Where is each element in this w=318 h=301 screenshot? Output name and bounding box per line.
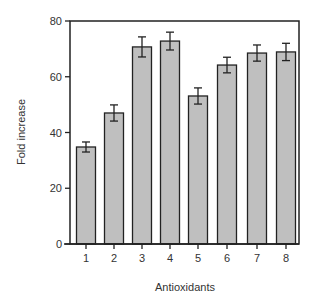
x-tick-label: 1 xyxy=(83,252,89,264)
x-ticks-group: 12345678 xyxy=(83,244,289,264)
x-tick-label: 7 xyxy=(254,252,260,264)
y-tick-label: 0 xyxy=(56,238,62,250)
y-tick-label: 40 xyxy=(50,127,62,139)
bar-2 xyxy=(105,113,124,244)
x-tick-label: 2 xyxy=(111,252,117,264)
x-axis-title: Antioxidants xyxy=(155,281,215,293)
x-tick-label: 8 xyxy=(283,252,289,264)
y-ticks-group: 020406080 xyxy=(50,15,70,250)
x-tick-label: 4 xyxy=(167,252,173,264)
y-axis-title: Fold increase xyxy=(15,99,27,165)
y-tick-label: 80 xyxy=(50,15,62,27)
bar-chart: 020406080 12345678 Fold increase Antioxi… xyxy=(0,0,318,301)
x-tick-label: 6 xyxy=(224,252,230,264)
y-tick-label: 20 xyxy=(50,182,62,194)
bar-4 xyxy=(161,41,180,244)
bar-3 xyxy=(133,47,152,244)
bar-1 xyxy=(77,147,96,244)
bar-7 xyxy=(248,53,267,244)
x-tick-label: 3 xyxy=(139,252,145,264)
bars-group xyxy=(77,41,296,244)
bar-6 xyxy=(218,65,237,244)
bar-8 xyxy=(277,52,296,244)
y-tick-label: 60 xyxy=(50,71,62,83)
bar-5 xyxy=(189,96,208,244)
x-tick-label: 5 xyxy=(195,252,201,264)
